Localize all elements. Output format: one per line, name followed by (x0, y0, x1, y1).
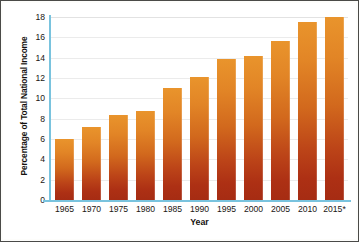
y-axis-tick-label: 4 (5, 154, 45, 164)
bar-2010 (298, 22, 318, 200)
y-axis-tick-label: 18 (5, 12, 45, 22)
x-axis-tick-label: 1985 (159, 204, 186, 214)
y-axis-tick-labels: 024681012141618 (3, 3, 45, 242)
x-axis-tick-label: 1965 (51, 204, 78, 214)
x-axis-tick-label: 1980 (132, 204, 159, 214)
y-axis-tick-label: 0 (5, 195, 45, 205)
x-axis-tick-label: 2000 (240, 204, 267, 214)
x-axis-tick-label: 1975 (105, 204, 132, 214)
x-axis-tick-label: 1990 (186, 204, 213, 214)
bar-1980 (136, 111, 156, 200)
bar-2015 (325, 17, 345, 200)
chart-canvas: Percentage of Total National Income 0246… (3, 3, 356, 239)
y-axis-tick-label: 14 (5, 53, 45, 63)
bar-1970 (82, 127, 102, 200)
x-axis-tick-label: 1995 (213, 204, 240, 214)
bar-1965 (55, 139, 75, 200)
bar-1975 (109, 115, 129, 200)
x-axis-tick-label: 2005 (267, 204, 294, 214)
x-axis-tick-label: 2015* (321, 204, 348, 214)
x-axis-tick-label: 2010 (294, 204, 321, 214)
y-axis-tick-label: 10 (5, 93, 45, 103)
y-axis-tick-label: 8 (5, 114, 45, 124)
x-axis-line (43, 200, 351, 202)
y-axis-tick-label: 12 (5, 73, 45, 83)
y-axis-tick-label: 16 (5, 32, 45, 42)
plot-area (51, 17, 348, 200)
bar-1985 (163, 88, 183, 200)
y-axis-tick-label: 2 (5, 175, 45, 185)
gridline (51, 17, 348, 18)
x-axis-tick-label: 1970 (78, 204, 105, 214)
bar-2005 (271, 41, 291, 200)
x-axis-title: Year (51, 217, 348, 227)
y-axis-tick-label: 6 (5, 134, 45, 144)
bar-1995 (217, 59, 237, 200)
chart-figure-frame: Percentage of Total National Income 0246… (0, 0, 359, 242)
bar-1990 (190, 77, 210, 200)
bar-2000 (244, 56, 264, 200)
